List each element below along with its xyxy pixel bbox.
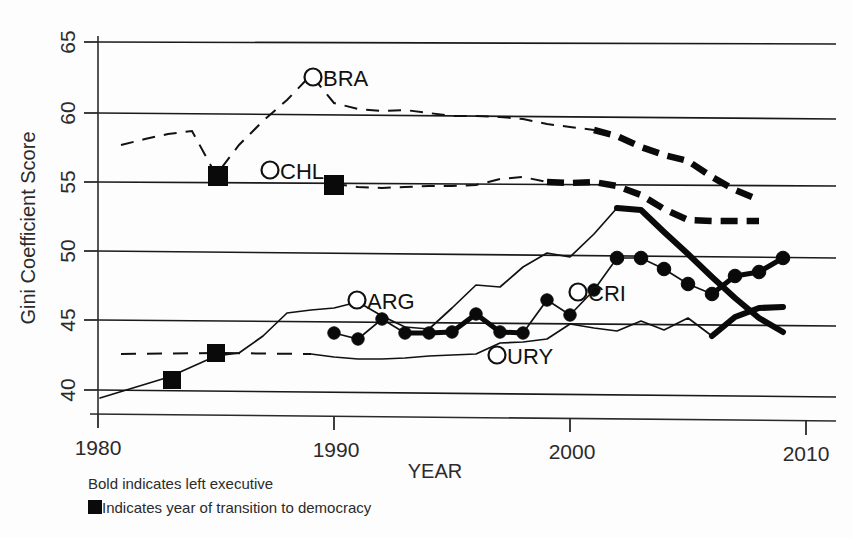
series-cri-point — [610, 251, 624, 265]
series-cri-point — [776, 251, 790, 265]
series-cri-point — [328, 327, 340, 339]
ury-label-text: URY — [507, 344, 553, 369]
series-cri-point — [376, 313, 388, 325]
series-cri-point — [634, 251, 648, 265]
series-bra-bold-segment — [594, 130, 759, 200]
y-tick-50: 50 — [56, 239, 79, 262]
y-tick-labels: 65 60 55 50 45 40 — [56, 30, 79, 401]
arg-label-marker-icon — [349, 292, 366, 309]
series-cri-point — [446, 326, 458, 338]
x-tick-1990: 1990 — [313, 438, 360, 461]
x-tick-1980: 1980 — [75, 436, 122, 459]
y-tick-55: 55 — [56, 170, 79, 193]
series-cri-point — [728, 269, 742, 283]
x-tick-2000: 2000 — [549, 440, 596, 463]
series-label-cri: CRI — [570, 281, 626, 306]
transition-square-bra-1985 — [208, 166, 228, 186]
series-cri-bold-segment-2 — [712, 258, 783, 294]
bra-label-marker-icon — [305, 69, 322, 86]
chart-legend: Bold indicates left executive Indicates … — [88, 475, 372, 516]
x-axis-title: YEAR — [408, 460, 462, 482]
y-tick-60: 60 — [56, 101, 79, 124]
chl-label-marker-icon — [262, 162, 279, 179]
x-tick-2010: 2010 — [783, 442, 830, 465]
series-label-chl: CHL — [262, 159, 325, 184]
legend-bold-note: Bold indicates left executive — [88, 475, 273, 492]
cri-label-text: CRI — [588, 281, 626, 306]
y-tick-65: 65 — [56, 30, 79, 53]
transition-square-chl-1990 — [324, 175, 344, 195]
chart-canvas: 65 60 55 50 45 40 Gini Coefficient Score… — [0, 0, 853, 538]
transition-square-arg-1983 — [163, 371, 181, 389]
legend-transition-square-icon — [88, 500, 102, 514]
series-cri-point — [564, 309, 576, 321]
cri-label-marker-icon — [570, 284, 587, 301]
x-axis — [90, 414, 836, 435]
chart-figure: 65 60 55 50 45 40 Gini Coefficient Score… — [0, 0, 853, 538]
series-chl-thin-segment — [334, 177, 547, 188]
arg-label-text: ARG — [367, 289, 415, 314]
series-label-ury: URY — [489, 344, 554, 369]
series-cri-point — [352, 333, 364, 345]
y-axis-title: Gini Coefficient Score — [17, 131, 39, 324]
series-cri-point — [541, 294, 553, 306]
series-cri-point — [399, 327, 411, 339]
bra-label-text: BRA — [323, 66, 369, 91]
transition-square-ury-1985 — [207, 344, 225, 362]
y-tick-40: 40 — [56, 378, 79, 401]
legend-transition-note: Indicates year of transition to democrac… — [102, 499, 372, 516]
series-arg — [100, 208, 783, 398]
ury-label-marker-icon — [489, 347, 506, 364]
series-cri-point — [423, 327, 435, 339]
series-ury-bold-segment — [712, 307, 783, 336]
series-label-bra: BRA — [305, 66, 369, 91]
y-tick-45: 45 — [56, 308, 79, 331]
series-cri-point — [494, 326, 506, 338]
series-cri-point — [752, 265, 766, 279]
chl-label-text: CHL — [280, 159, 324, 184]
series-cri-point — [470, 308, 482, 320]
series-cri-point — [681, 277, 695, 291]
series-cri-point — [705, 287, 719, 301]
series-cri-point — [657, 262, 671, 276]
series-cri-point — [517, 327, 529, 339]
y-axis — [84, 36, 98, 414]
series-label-arg: ARG — [349, 289, 415, 314]
